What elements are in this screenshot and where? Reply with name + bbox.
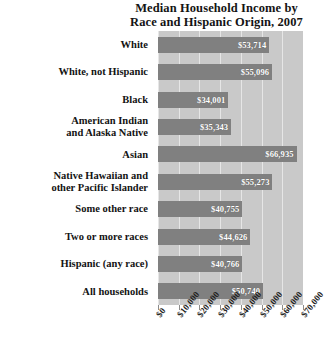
category-label-line: White, not Hispanic: [58, 66, 148, 78]
bar-value-label: $40,755: [158, 201, 242, 217]
category-label-line: Hispanic (any race): [61, 258, 149, 270]
category-label: Some other race: [0, 195, 148, 222]
bar-row[interactable]: $34,001: [158, 92, 303, 108]
category-label: Hispanic (any race): [0, 250, 148, 277]
category-label-line: Two or more races: [65, 231, 148, 243]
category-axis-labels: WhiteWhite, not HispanicBlackAmerican In…: [0, 31, 153, 305]
value-axis-labels: $0$10,000$20,000$30,000$40,000$50,000$60…: [0, 305, 333, 362]
category-label-line: All households: [82, 286, 148, 298]
category-label: Two or more races: [0, 223, 148, 250]
category-label-line: other Pacific Islander: [51, 182, 148, 194]
axis-tick-label: $0: [154, 306, 168, 319]
bar-row[interactable]: $53,714: [158, 37, 303, 53]
bar-value-label: $34,001: [158, 92, 228, 108]
bar-value-label: $44,626: [158, 229, 250, 245]
bars-layer: $53,714$55,096$34,001$35,343$66,935$55,2…: [158, 31, 303, 305]
bar-row[interactable]: $40,755: [158, 201, 303, 217]
category-label: Native Hawaiian andother Pacific Islande…: [0, 168, 148, 195]
plot-area: $53,714$55,096$34,001$35,343$66,935$55,2…: [158, 31, 303, 305]
bar-value-label: $66,935: [158, 146, 297, 162]
category-label-line: Black: [122, 94, 148, 106]
category-label: All households: [0, 278, 148, 305]
category-label-line: American Indian: [71, 115, 148, 127]
bar-value-label: $53,714: [158, 37, 269, 53]
category-label: Black: [0, 86, 148, 113]
bar-value-label: $40,766: [158, 256, 242, 272]
bar-value-label: $55,096: [158, 64, 272, 80]
bar-value-label: $35,343: [158, 119, 231, 135]
bar-chart: Median Household Income by Race and Hisp…: [0, 0, 333, 362]
bar-row[interactable]: $40,766: [158, 256, 303, 272]
category-label: White, not Hispanic: [0, 58, 148, 85]
category-label-line: Native Hawaiian and: [53, 170, 148, 182]
category-label: American Indianand Alaska Native: [0, 113, 148, 140]
bar-row[interactable]: $55,096: [158, 64, 303, 80]
category-label-line: White: [121, 39, 148, 51]
bar-row[interactable]: $66,935: [158, 146, 303, 162]
category-label: Asian: [0, 141, 148, 168]
bar-row[interactable]: $55,273: [158, 174, 303, 190]
bar-row[interactable]: $35,343: [158, 119, 303, 135]
category-label-line: Asian: [122, 149, 148, 161]
chart-title: Median Household Income by Race and Hisp…: [100, 1, 333, 29]
category-label: White: [0, 31, 148, 58]
chart-title-line-2: Race and Hispanic Origin, 2007: [100, 15, 333, 29]
bar-row[interactable]: $44,626: [158, 229, 303, 245]
chart-title-line-1: Median Household Income by: [100, 1, 333, 15]
category-label-line: Some other race: [75, 203, 148, 215]
category-label-line: and Alaska Native: [66, 127, 148, 139]
bar-value-label: $55,273: [158, 174, 272, 190]
